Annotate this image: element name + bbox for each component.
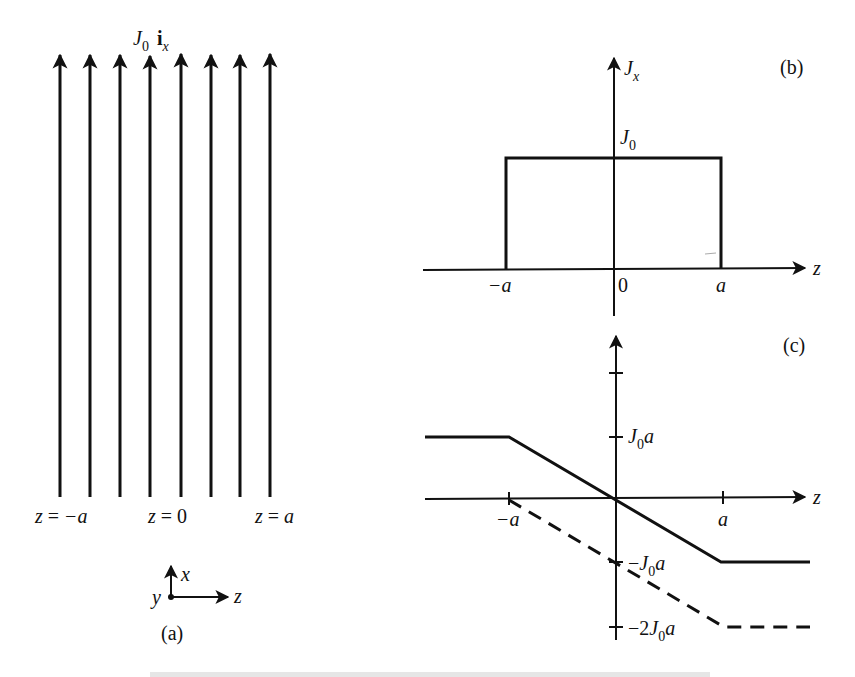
position-label-plus-a: z = a [254, 505, 294, 527]
axis-label-z: z [233, 585, 242, 607]
j0-level-label: J0 [620, 126, 636, 153]
tick-label-j0a: J0a [628, 425, 654, 452]
axis-label-y: y [150, 586, 161, 609]
z-axis [423, 268, 805, 270]
tick-label-a: a [716, 274, 726, 296]
scan-mark [705, 253, 716, 254]
tick-label-minus-a: −a [488, 274, 512, 296]
tick-label-a: a [718, 508, 728, 530]
coordinate-axes-icon: x z y [150, 563, 242, 609]
jx-axis-label: Jx [624, 57, 640, 84]
axis-label-x: x [180, 563, 190, 585]
position-label-zero: z = 0 [147, 505, 187, 527]
panel-c: z −a a J0a −J0a −2J0a (c) [425, 334, 821, 644]
panel-a: J0ix z = −a z = 0 z = a x z y (a) [34, 27, 294, 645]
tick-label-minus-2j0a: −2J0a [628, 617, 675, 644]
current-arrows [60, 54, 270, 497]
z-axis-label: z [812, 257, 821, 279]
caption-fragment [150, 672, 710, 677]
panel-b-label: (b) [780, 56, 803, 79]
tick-label-zero: 0 [618, 274, 628, 296]
tick-label-minus-a: −a [496, 508, 520, 530]
panel-c-label: (c) [783, 334, 805, 357]
position-label-minus-a: z = −a [34, 505, 88, 527]
figure-canvas: J0ix z = −a z = 0 z = a x z y (a) Jx [0, 0, 855, 677]
z-axis-label: z [812, 486, 821, 508]
current-density-label: J0ix [133, 27, 169, 54]
panel-a-label: (a) [161, 622, 183, 645]
panel-b: Jx z J0 −a 0 a (b) [423, 56, 821, 316]
